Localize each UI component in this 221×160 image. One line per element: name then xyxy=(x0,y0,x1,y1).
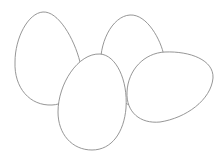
egg-right-tilted xyxy=(127,52,213,122)
egg-drawing-canvas xyxy=(0,0,221,160)
eggs-illustration xyxy=(0,0,221,160)
